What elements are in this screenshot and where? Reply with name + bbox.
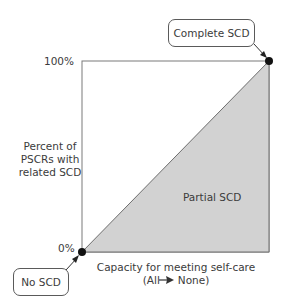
x-axis-all-label: (All xyxy=(143,274,160,287)
no-scd-callout: No SCD xyxy=(13,268,69,296)
y-axis-title-line: PSCRs with xyxy=(18,153,82,166)
y-tick-100: 100% xyxy=(44,55,74,68)
x-axis-none-label: None) xyxy=(178,274,210,287)
complete-scd-label: Complete SCD xyxy=(173,27,249,39)
no-scd-point xyxy=(78,248,86,256)
x-axis-subtitle: (All None) xyxy=(96,274,256,287)
no-scd-label: No SCD xyxy=(21,276,61,288)
y-axis-title: Percent of PSCRs with related SCD xyxy=(18,140,82,179)
y-tick-0: 0% xyxy=(58,242,75,255)
y-axis-title-line: related SCD xyxy=(18,166,82,179)
partial-scd-region xyxy=(82,61,269,252)
x-axis-title: Capacity for meeting self-care (All None… xyxy=(96,261,256,287)
y-axis-title-line: Percent of xyxy=(18,140,82,153)
complete-scd-point xyxy=(265,57,273,65)
x-axis-title-line: Capacity for meeting self-care xyxy=(96,261,256,274)
partial-scd-label: Partial SCD xyxy=(183,191,241,204)
complete-scd-callout: Complete SCD xyxy=(168,19,255,47)
